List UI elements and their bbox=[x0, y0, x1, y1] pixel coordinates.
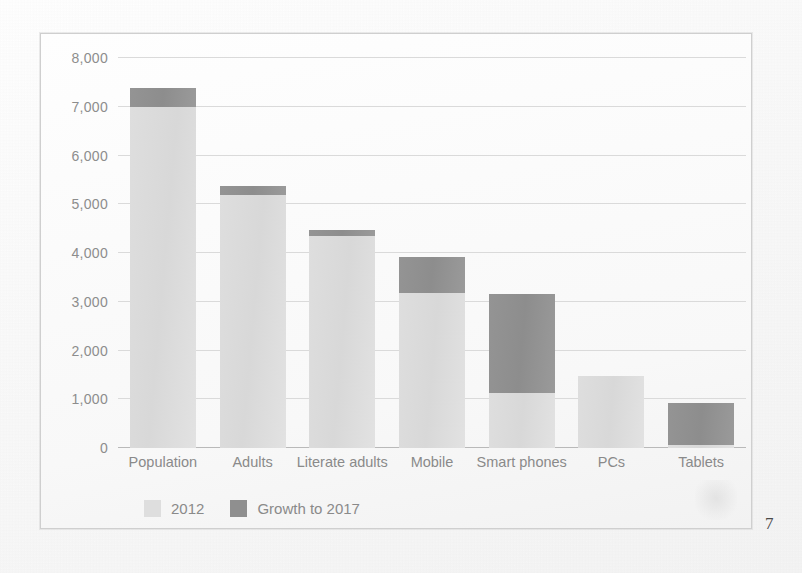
page-number: 7 bbox=[765, 514, 774, 534]
category-label-literate-adults: Literate adults bbox=[297, 454, 388, 470]
bar-segment-2012[interactable] bbox=[399, 293, 465, 448]
y-tick-label-7000: 7,000 bbox=[38, 99, 108, 115]
chart-legend: 2012Growth to 2017 bbox=[144, 500, 360, 517]
category-label-adults: Adults bbox=[232, 454, 272, 470]
legend-swatch-icon bbox=[230, 500, 247, 517]
bar-group[interactable] bbox=[130, 58, 196, 448]
bar-segment-2012[interactable] bbox=[130, 107, 196, 448]
slide-frame: 01,0002,0003,0004,0005,0006,0007,0008,00… bbox=[40, 33, 752, 529]
category-label-population: Population bbox=[129, 454, 198, 470]
bar-segment-2012[interactable] bbox=[489, 393, 555, 448]
bar-segment-2012[interactable] bbox=[309, 236, 375, 448]
category-label-tablets: Tablets bbox=[678, 454, 724, 470]
category-label-mobile: Mobile bbox=[411, 454, 454, 470]
bar-group[interactable] bbox=[399, 58, 465, 448]
y-tick-label-5000: 5,000 bbox=[38, 196, 108, 212]
plot-area: 01,0002,0003,0004,0005,0006,0007,0008,00… bbox=[118, 58, 746, 448]
bars-layer bbox=[118, 58, 746, 448]
y-tick-label-2000: 2,000 bbox=[38, 343, 108, 359]
bar-segment-2012[interactable] bbox=[668, 445, 734, 448]
bar-segment-growth-to-2017[interactable] bbox=[220, 186, 286, 196]
x-axis-category-labels: PopulationAdultsLiterate adultsMobileSma… bbox=[118, 454, 746, 480]
y-tick-label-1000: 1,000 bbox=[38, 391, 108, 407]
legend-label: 2012 bbox=[171, 500, 204, 517]
bar-group[interactable] bbox=[489, 58, 555, 448]
category-label-smart-phones: Smart phones bbox=[477, 454, 567, 470]
bar-segment-growth-to-2017[interactable] bbox=[668, 403, 734, 445]
bar-group[interactable] bbox=[578, 58, 644, 448]
y-tick-label-0: 0 bbox=[38, 440, 108, 456]
y-tick-label-3000: 3,000 bbox=[38, 294, 108, 310]
y-tick-label-8000: 8,000 bbox=[38, 50, 108, 66]
bar-group[interactable] bbox=[309, 58, 375, 448]
bar-segment-growth-to-2017[interactable] bbox=[399, 257, 465, 293]
legend-swatch-icon bbox=[144, 500, 161, 517]
category-label-pcs: PCs bbox=[598, 454, 625, 470]
bar-group[interactable] bbox=[668, 58, 734, 448]
bar-segment-2012[interactable] bbox=[220, 195, 286, 448]
bar-segment-growth-to-2017[interactable] bbox=[130, 88, 196, 107]
y-tick-label-6000: 6,000 bbox=[38, 148, 108, 164]
legend-label: Growth to 2017 bbox=[257, 500, 360, 517]
bar-segment-growth-to-2017[interactable] bbox=[489, 294, 555, 392]
page-canvas: 01,0002,0003,0004,0005,0006,0007,0008,00… bbox=[0, 0, 802, 573]
bar-group[interactable] bbox=[220, 58, 286, 448]
bar-segment-growth-to-2017[interactable] bbox=[309, 230, 375, 236]
bar-segment-2012[interactable] bbox=[578, 376, 644, 448]
legend-item-2012[interactable]: 2012 bbox=[144, 500, 204, 517]
y-tick-label-4000: 4,000 bbox=[38, 245, 108, 261]
legend-item-growth-to-2017[interactable]: Growth to 2017 bbox=[230, 500, 360, 517]
